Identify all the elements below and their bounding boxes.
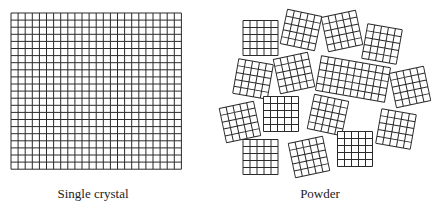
crystal-comparison-figure: Single crystal Powder <box>0 0 442 207</box>
powder-grain <box>307 94 349 136</box>
single-crystal-lattice <box>11 13 181 169</box>
powder-grain <box>273 52 315 94</box>
powder-grain <box>280 9 322 51</box>
powder-label: Powder <box>300 186 340 202</box>
single-crystal-label: Single crystal <box>57 186 128 202</box>
powder-grain <box>264 97 299 132</box>
powder-grains <box>219 9 431 178</box>
powder-grain <box>219 101 261 143</box>
powder-grain <box>288 136 330 178</box>
powder-grain <box>338 132 373 167</box>
powder-grain <box>315 56 390 103</box>
lattice-grid <box>11 13 181 169</box>
powder-grain <box>243 140 278 175</box>
figure-canvas <box>0 0 442 207</box>
powder-grain <box>321 10 363 52</box>
powder-grain <box>362 24 403 65</box>
powder-grain <box>243 21 278 56</box>
powder-grain <box>233 59 274 100</box>
powder-grain <box>389 66 431 108</box>
powder-grain <box>376 109 417 150</box>
